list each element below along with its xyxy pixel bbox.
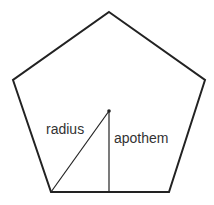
apothem-label: apothem (114, 130, 168, 146)
center-point (107, 109, 111, 113)
radius-label: radius (46, 121, 84, 137)
pentagon-diagram: radius apothem (0, 0, 214, 205)
